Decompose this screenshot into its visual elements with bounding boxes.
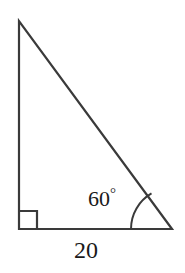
angle-value: 60: [88, 186, 110, 211]
right-angle-marker-icon: [19, 211, 37, 229]
degree-symbol-icon: °: [110, 185, 116, 201]
base-length-label: 20: [74, 238, 98, 262]
angle-arc-icon: [131, 193, 152, 229]
triangle-diagram-svg: [0, 0, 185, 273]
triangle-figure: 60° 20: [0, 0, 185, 273]
angle-label: 60°: [88, 186, 116, 210]
